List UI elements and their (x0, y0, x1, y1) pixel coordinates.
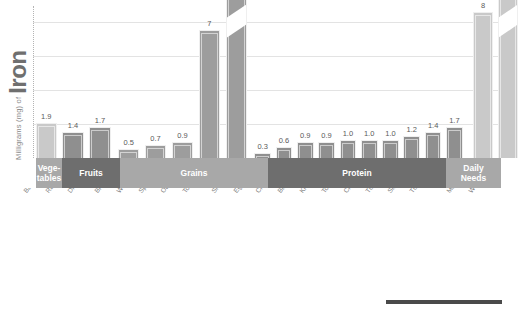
bar[interactable] (361, 140, 378, 158)
category-band-vegetables: Vege-tables (36, 158, 62, 188)
gridline (33, 56, 501, 57)
bar[interactable] (498, 0, 518, 158)
bar[interactable] (145, 145, 166, 158)
bar-inner (299, 145, 312, 158)
bar-value-label: 7 (195, 19, 224, 28)
bar-inner (342, 143, 355, 158)
category-band-label: Vege-tables (37, 163, 62, 183)
bar-value-label: 0.5 (114, 138, 143, 147)
bar[interactable] (403, 136, 420, 158)
category-band-label: Protein (342, 168, 371, 178)
bar-value-label: 1.7 (85, 116, 114, 125)
bottom-rule (386, 300, 502, 304)
bar[interactable] (297, 142, 314, 158)
bar[interactable] (62, 132, 83, 158)
bar-inner (228, 0, 245, 158)
bar-inner (475, 15, 491, 158)
bar[interactable] (382, 140, 399, 158)
x-axis-label: Men 19 to 50 years (445, 188, 486, 194)
bar[interactable] (446, 127, 463, 158)
x-axis-label: Whole-wheat or white bread, 1 slice (115, 188, 186, 194)
bar-inner (91, 130, 108, 158)
bar-value-label: 1.7 (442, 116, 467, 125)
category-band-protein: Protein (268, 158, 446, 188)
bar-value-label: 0.9 (168, 131, 197, 140)
x-axis-label: Women 19 to 50 years (467, 188, 505, 194)
bar[interactable] (473, 12, 493, 158)
bar-inner (427, 135, 440, 158)
bar[interactable] (226, 0, 247, 158)
bar-inner (147, 148, 164, 158)
bar[interactable] (425, 132, 442, 158)
gridline (33, 22, 501, 23)
chart-plot-area: 1.91.41.70.50.70.97180.30.60.90.91.01.01… (33, 6, 501, 158)
y-axis-title-units: Milligrams (mg) of (14, 97, 23, 160)
bar-inner (64, 135, 81, 158)
category-band-grains: Grains (120, 158, 268, 188)
category-band-label: DailyNeeds (461, 163, 487, 183)
bar-inner (278, 150, 291, 158)
category-band: Vege-tablesFruitsGrainsProteinDailyNeeds (33, 158, 501, 188)
bar[interactable] (318, 142, 335, 158)
bar-inner (405, 139, 418, 158)
y-axis-title: Milligrams (mg) of Iron (0, 0, 36, 160)
category-band-fruits: Fruits (62, 158, 120, 188)
bar[interactable] (340, 140, 357, 158)
bar[interactable] (89, 127, 110, 158)
bar[interactable] (172, 142, 193, 158)
bar-inner (500, 0, 516, 158)
bar-inner (38, 126, 55, 158)
bar-inner (363, 143, 376, 158)
bar-value-label: 1.9 (32, 112, 61, 121)
bar[interactable] (276, 147, 293, 158)
x-axis-labels: Baked potato with skin, 1 smallRaisins, … (0, 188, 505, 311)
bar-inner (201, 33, 218, 158)
bar-inner (174, 145, 191, 158)
bar-value-label: 0.7 (141, 134, 170, 143)
gridline (33, 90, 501, 91)
bar-inner (448, 130, 461, 158)
bar[interactable] (199, 30, 220, 158)
bar-value-label: 8 (469, 1, 497, 10)
bar-inner (320, 145, 333, 158)
category-band-dailyneeds: DailyNeeds (446, 158, 501, 188)
y-axis-title-nutrient: Iron (6, 50, 30, 93)
bar-inner (384, 143, 397, 158)
x-axis-label: Dried apricots, ½ cup (66, 188, 110, 194)
daily-needs-separator (33, 6, 34, 158)
x-axis-label: Spaghetti (enriched), cooked, ½ cup (137, 188, 208, 194)
category-band-label: Fruits (79, 168, 103, 178)
bar[interactable] (36, 123, 57, 158)
bar-value-label: 1.4 (58, 121, 87, 130)
category-band-label: Grains (181, 168, 208, 178)
bar[interactable] (118, 149, 139, 158)
